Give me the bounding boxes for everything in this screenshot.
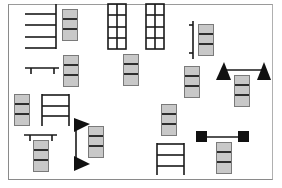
stack-cell: [15, 95, 29, 105]
bench-top-left-icon: [25, 68, 59, 74]
ladder-bottom-icon: [157, 143, 184, 175]
stack-cell: [185, 67, 199, 77]
stack-cell: [34, 151, 48, 161]
stack-cell: [235, 76, 249, 86]
weight-stack-stack-3: [123, 54, 139, 86]
stack-cell: [217, 163, 231, 173]
stack-cell: [63, 20, 77, 30]
stack-cell: [124, 55, 138, 65]
triangle-left-icon: [216, 62, 231, 80]
stack-cell: [15, 105, 29, 115]
stack-cell: [34, 141, 48, 151]
weight-stack-stack-10: [161, 104, 177, 136]
weight-stack-stack-2: [63, 55, 79, 87]
stack-cell: [199, 25, 213, 35]
stack-cell: [63, 10, 77, 20]
weight-stack-stack-11: [216, 142, 232, 174]
stack-cell: [34, 161, 48, 171]
stack-cell: [199, 35, 213, 45]
stack-cell: [162, 105, 176, 115]
dumbbell-weight-left-icon: [196, 131, 207, 142]
bracket-vertical-icon: [189, 21, 193, 59]
stack-cell: [235, 96, 249, 106]
stack-cell: [89, 147, 103, 157]
stack-cell: [124, 75, 138, 85]
stack-cell: [235, 86, 249, 96]
weight-stack-stack-7: [14, 94, 30, 126]
stack-cell: [185, 77, 199, 87]
stack-cell: [124, 65, 138, 75]
weight-stack-stack-5: [184, 66, 200, 98]
rack-four-rails-icon: [25, 4, 56, 49]
dumbbell-weight-right-icon: [238, 131, 249, 142]
stack-cell: [89, 127, 103, 137]
triangle-right-icon: [257, 62, 271, 80]
ladder-left-icon: [42, 94, 69, 126]
triangle-bottom-icon: [74, 156, 90, 171]
stack-cell: [63, 30, 77, 40]
stack-cell: [162, 115, 176, 125]
weight-stack-stack-8: [88, 126, 104, 158]
grid-rack-right-icon: [146, 4, 164, 49]
stack-cell: [64, 76, 78, 86]
grid-rack-left-icon: [108, 4, 126, 49]
stack-cell: [89, 137, 103, 147]
stack-cell: [217, 153, 231, 163]
stack-cell: [162, 125, 176, 135]
weight-stack-stack-4: [198, 24, 214, 56]
stack-cell: [64, 56, 78, 66]
stack-cell: [64, 66, 78, 76]
stack-cell: [185, 87, 199, 97]
stack-cell: [15, 115, 29, 125]
stack-cell: [217, 143, 231, 153]
weight-stack-stack-9: [33, 140, 49, 172]
stack-cell: [199, 45, 213, 55]
weight-stack-stack-6: [234, 75, 250, 107]
weight-stack-stack-1: [62, 9, 78, 41]
